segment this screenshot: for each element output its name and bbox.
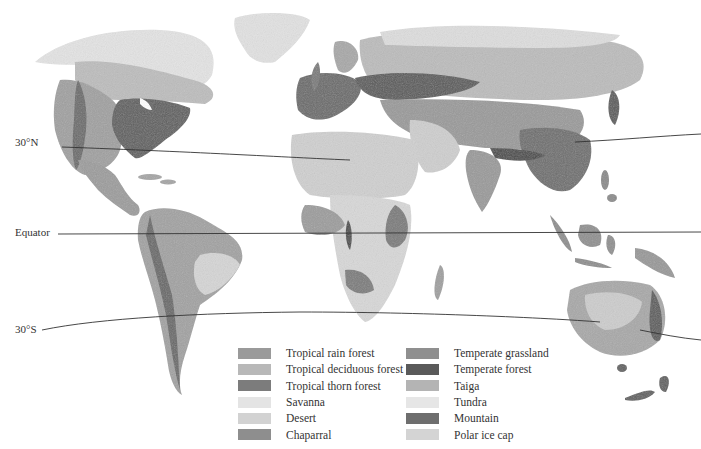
swatch [238, 380, 271, 391]
swatch [406, 348, 439, 359]
legend-item-desert: Desert [238, 410, 403, 426]
swatch [238, 364, 271, 375]
legend-column-1: Tropical rain forest Tropical deciduous … [238, 345, 403, 443]
new-guinea [635, 248, 675, 278]
legend-item-temperate-grassland: Temperate grassland [406, 345, 549, 361]
latitude-label-30s: 30°S [15, 323, 37, 335]
swatch [238, 429, 271, 440]
legend-item-taiga: Taiga [406, 378, 549, 394]
swatch [406, 364, 439, 375]
asia-tundra [380, 26, 620, 48]
legend-item-tundra: Tundra [406, 394, 549, 410]
legend-item-mountain: Mountain [406, 410, 549, 426]
legend-item-tropical-rain-forest: Tropical rain forest [238, 345, 403, 361]
legend-item-temperate-forest: Temperate forest [406, 361, 549, 377]
latitude-label-30n: 30°N [15, 136, 38, 148]
swatch [238, 413, 271, 424]
biome-legend: Tropical rain forest Tropical deciduous … [238, 345, 558, 445]
sumatra [550, 215, 572, 252]
swatch [406, 413, 439, 424]
swatch [406, 429, 439, 440]
south-america-savanna [194, 253, 240, 295]
legend-item-chaparral: Chaparral [238, 426, 403, 442]
europe [296, 73, 361, 120]
legend-item-tropical-thorn-forest: Tropical thorn forest [238, 378, 403, 394]
legend-item-tropical-deciduous-forest: Tropical deciduous forest [238, 361, 403, 377]
swatch [238, 397, 271, 408]
latitude-label-equator: Equator [15, 226, 50, 238]
swatch [238, 348, 271, 359]
swatch [406, 380, 439, 391]
africa-desert [291, 132, 419, 199]
legend-item-polar-ice-cap: Polar ice cap [406, 426, 549, 442]
borneo [578, 224, 601, 247]
central-america [78, 160, 140, 216]
sulawesi [606, 235, 615, 255]
madagascar [434, 265, 443, 300]
legend-column-2: Temperate grassland Temperate forest Tai… [406, 345, 549, 443]
swatch [406, 397, 439, 408]
india [466, 150, 501, 212]
greenland [234, 13, 310, 63]
legend-item-savanna: Savanna [238, 394, 403, 410]
